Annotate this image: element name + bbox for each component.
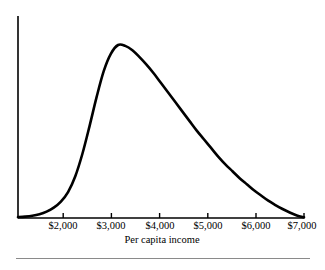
distribution-curve [18, 44, 304, 217]
xtick-label-3000: $3,000 [97, 220, 126, 232]
xtick-label-7000: $7,000 [288, 220, 317, 232]
xtick-label-6000: $6,000 [242, 220, 271, 232]
chart-figure: $2,000 $3,000 $4,000 $5,000 $6,000 $7,00… [0, 0, 325, 270]
x-axis-title: Per capita income [124, 233, 199, 246]
xtick-label-4000: $4,000 [146, 220, 175, 232]
xtick-label-2000: $2,000 [49, 220, 78, 232]
xtick-label-5000: $5,000 [194, 220, 223, 232]
footer-divider [16, 258, 310, 259]
